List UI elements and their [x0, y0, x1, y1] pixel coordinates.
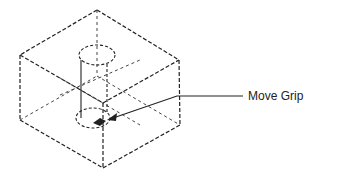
leader-line — [113, 96, 243, 118]
hidden-edge-back-left — [20, 76, 97, 120]
move-grip-label: Move Grip — [248, 89, 303, 103]
wireframe-cube — [20, 10, 180, 168]
hidden-edges — [20, 10, 180, 125]
cube-edge-right-vertical — [179, 60, 180, 125]
leader-arrow — [107, 96, 243, 121]
hidden-diagonal-right — [60, 60, 140, 95]
cylinder-hole — [76, 45, 115, 128]
cube-edge-top-right — [97, 10, 179, 60]
cube-edge-bottom-left — [20, 120, 103, 168]
move-grip-marker[interactable] — [93, 118, 106, 126]
cube-edge-top-left — [20, 10, 97, 55]
cube-edge-front-right-top — [103, 60, 179, 103]
cube-edge-bottom-right — [103, 125, 180, 168]
